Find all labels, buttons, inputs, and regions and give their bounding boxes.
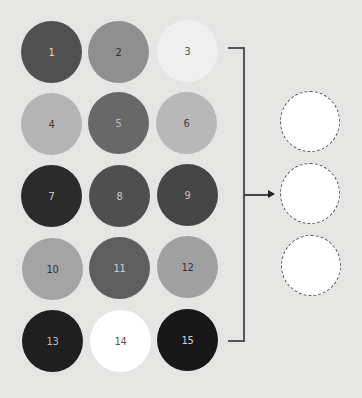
circle-label: 2	[116, 46, 122, 59]
circle-13: 13	[22, 310, 83, 372]
circle-15: 15	[157, 309, 218, 371]
circle-6: 6	[156, 92, 217, 154]
circle-8: 8	[89, 165, 150, 227]
circle-11: 11	[89, 237, 150, 299]
circle-1: 1	[21, 21, 82, 83]
circle-label: 3	[185, 45, 191, 58]
circle-label: 11	[114, 262, 126, 275]
bracket-bottom-tick	[228, 340, 244, 342]
arrow-shaft	[244, 194, 268, 196]
empty-slot-2	[280, 163, 340, 224]
circle-14: 14	[90, 310, 151, 372]
bracket-top-tick	[228, 47, 244, 49]
circle-label: 5	[116, 117, 122, 130]
circle-label: 9	[185, 189, 191, 202]
circle-2: 2	[88, 21, 149, 83]
circle-label: 10	[47, 263, 59, 276]
circle-label: 12	[182, 261, 194, 274]
circle-label: 8	[117, 190, 123, 203]
circle-5: 5	[88, 92, 149, 154]
circle-label: 13	[47, 335, 59, 348]
circle-3: 3	[157, 20, 218, 82]
arrow-right-icon	[268, 190, 275, 198]
circle-label: 4	[49, 118, 55, 131]
circle-9: 9	[157, 164, 218, 226]
empty-slot-3	[281, 235, 341, 296]
circle-12: 12	[157, 236, 218, 298]
circle-label: 1	[49, 46, 55, 59]
circle-10: 10	[22, 238, 83, 300]
circle-label: 15	[182, 334, 194, 347]
empty-slot-1	[280, 91, 340, 152]
circle-label: 14	[115, 335, 127, 348]
circle-label: 6	[184, 117, 190, 130]
circle-7: 7	[21, 165, 82, 227]
circle-4: 4	[21, 93, 82, 155]
circle-label: 7	[49, 190, 55, 203]
